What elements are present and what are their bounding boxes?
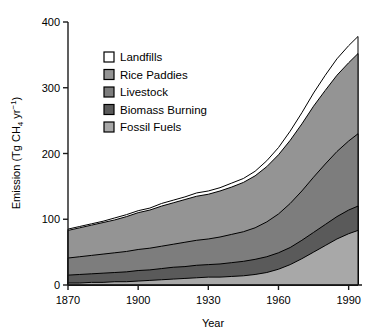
y-tick-label: 300 (42, 82, 60, 94)
legend-swatch-livestock (104, 87, 114, 97)
legend-label-livestock: Livestock (120, 86, 168, 98)
x-axis-title: Year (202, 317, 225, 329)
stacked-area-chart: 010020030040018701900193019601990 Landfi… (0, 0, 385, 334)
y-tick-label: 0 (54, 279, 60, 291)
legend-swatch-landfills (104, 52, 114, 62)
legend-swatch-fossil-fuels (104, 122, 114, 132)
y-tick-label: 200 (42, 148, 60, 160)
legend-label-landfills: Landfills (120, 51, 162, 63)
chart-legend: LandfillsRice PaddiesLivestockBiomass Bu… (104, 51, 207, 133)
y-tick-label: 100 (42, 213, 60, 225)
x-tick-label: 1960 (266, 294, 290, 306)
legend-label-rice-paddies: Rice Paddies (120, 69, 188, 81)
x-tick-label: 1900 (126, 294, 150, 306)
legend-label-biomass-burning: Biomass Burning (120, 104, 207, 116)
legend-swatch-rice-paddies (104, 70, 114, 80)
legend-label-fossil-fuels: Fossil Fuels (120, 121, 182, 133)
y-axis-title: Emission (Tg CH4 yr−1) (9, 97, 25, 210)
x-tick-label: 1990 (336, 294, 360, 306)
x-tick-label: 1930 (196, 294, 220, 306)
legend-swatch-biomass-burning (104, 105, 114, 115)
x-tick-label: 1870 (56, 294, 80, 306)
y-tick-label: 400 (42, 16, 60, 28)
figure: 010020030040018701900193019601990 Landfi… (0, 0, 385, 334)
